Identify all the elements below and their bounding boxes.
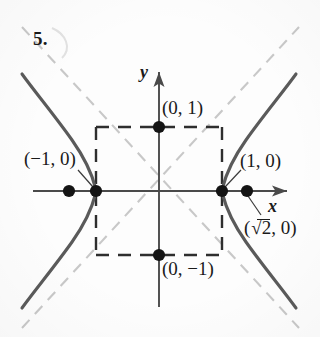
point-vertex-left (90, 185, 102, 197)
leader-lines (78, 170, 261, 215)
sqrt-icon: √2 (250, 218, 271, 237)
y-axis-label: y (140, 63, 148, 81)
label-covertex-bottom: (0, −1) (162, 259, 214, 278)
point-vertex-right (216, 185, 228, 197)
label-focus-right: (√2, 0) (244, 218, 297, 237)
point-focus-left (63, 185, 75, 197)
scan-artifact-arc (52, 28, 67, 58)
focus-label-suffix: , 0) (271, 217, 296, 238)
label-vertex-left: (−1, 0) (24, 149, 76, 168)
figure-number: 5. (33, 29, 48, 48)
label-vertex-right: (1, 0) (240, 151, 281, 170)
asymptote-group (22, 27, 299, 328)
hyperbola-figure: 5. y x (0, 1) (0, −1) (−1, 0) (1, 0) (√2… (0, 0, 320, 337)
focus-label-radicand: 2 (262, 217, 272, 238)
x-axis-label: x (268, 197, 277, 215)
label-covertex-top: (0, 1) (162, 98, 203, 117)
point-focus-right (241, 185, 253, 197)
leader-line-focus-right (248, 196, 261, 215)
point-covertex-top (153, 121, 165, 133)
